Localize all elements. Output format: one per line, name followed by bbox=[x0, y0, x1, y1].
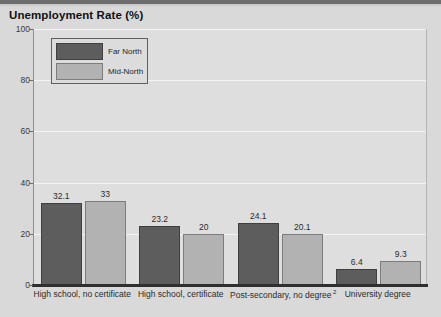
y-axis-tick-mark bbox=[29, 285, 33, 286]
legend-swatch-mid-north bbox=[56, 63, 103, 80]
bar-value-label: 20 bbox=[177, 222, 230, 232]
bar-value-label: 20.1 bbox=[276, 222, 329, 232]
bar-far-north bbox=[139, 226, 180, 285]
legend-label-far-north: Far North bbox=[108, 47, 142, 56]
y-axis-tick-label: 100 bbox=[4, 25, 30, 34]
gridline bbox=[34, 131, 426, 132]
legend: Far North Mid-North bbox=[51, 38, 148, 84]
bar-value-label: 33 bbox=[79, 189, 132, 199]
y-axis-tick-mark bbox=[29, 131, 33, 132]
bar-value-label: 24.1 bbox=[232, 211, 285, 221]
top-border-rule-secondary bbox=[0, 4, 441, 6]
legend-item-mid-north: Mid-North bbox=[56, 63, 145, 80]
y-axis-tick-mark bbox=[29, 234, 33, 235]
bar-value-label: 9.3 bbox=[374, 249, 427, 259]
x-axis-category-label: Post-secondary, no degree 2 bbox=[230, 289, 329, 300]
x-axis-category-label: University degree bbox=[329, 289, 428, 299]
legend-item-far-north: Far North bbox=[56, 43, 145, 60]
x-axis-baseline bbox=[32, 284, 428, 287]
bar-far-north bbox=[336, 269, 377, 285]
bar-mid-north bbox=[380, 261, 421, 285]
gridline bbox=[34, 29, 426, 30]
y-axis-tick-mark bbox=[29, 80, 33, 81]
unemployment-rate-bar-chart: Unemployment Rate (%) 020406080100 32.13… bbox=[0, 0, 441, 317]
x-axis-category-labels: High school, no certificateHigh school, … bbox=[0, 289, 441, 309]
y-axis-tick-label: 40 bbox=[4, 179, 30, 188]
legend-label-mid-north: Mid-North bbox=[108, 67, 143, 76]
bar-mid-north bbox=[85, 201, 126, 285]
y-axis-tick-label: 80 bbox=[4, 76, 30, 85]
bar-mid-north bbox=[183, 234, 224, 285]
bar-far-north bbox=[238, 223, 279, 285]
x-axis-category-label: High school, certificate bbox=[132, 289, 231, 299]
bar-far-north bbox=[41, 203, 82, 285]
y-axis-tick-label: 20 bbox=[4, 230, 30, 239]
y-axis-tick-mark bbox=[29, 183, 33, 184]
y-axis-tick-mark bbox=[29, 29, 33, 30]
y-axis-tick-label: 60 bbox=[4, 127, 30, 136]
x-axis-category-label: High school, no certificate bbox=[33, 289, 132, 299]
bar-mid-north bbox=[282, 234, 323, 285]
legend-swatch-far-north bbox=[56, 43, 103, 60]
gridline bbox=[34, 183, 426, 184]
y-axis: 020406080100 bbox=[0, 0, 30, 317]
